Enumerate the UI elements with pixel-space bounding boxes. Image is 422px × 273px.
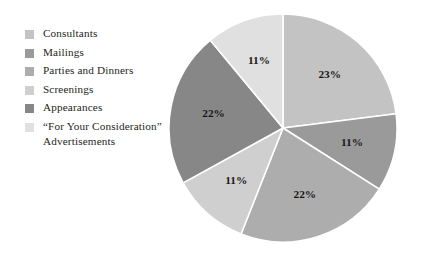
legend-swatch-icon — [25, 123, 34, 132]
pie-svg: 23%11%22%11%22%11% — [168, 13, 398, 243]
pie-slice-value-label: 22% — [294, 188, 317, 200]
legend-item-label: Mailings — [43, 45, 84, 61]
legend-item-screenings: Screenings — [25, 82, 175, 98]
legend-swatch-icon — [25, 30, 34, 39]
pie-slice-group — [169, 14, 397, 242]
pie-slice-value-label: 11% — [225, 174, 247, 186]
legend-item-mailings: Mailings — [25, 45, 175, 61]
legend-item-label: “For Your Consideration” Advertisements — [43, 119, 162, 150]
pie-slice-value-label: 11% — [341, 136, 363, 148]
pie-graphic: 23%11%22%11%22%11% — [168, 13, 398, 243]
legend-swatch-icon — [25, 49, 34, 58]
legend-swatch-icon — [25, 67, 34, 76]
legend-swatch-icon — [25, 104, 34, 113]
legend-item-appearances: Appearances — [25, 100, 175, 116]
legend-item-parties-and-dinners: Parties and Dinners — [25, 63, 175, 79]
legend-item-label: Appearances — [43, 100, 102, 116]
legend-item-label: Parties and Dinners — [43, 63, 133, 79]
legend-swatch-icon — [25, 86, 34, 95]
pie-slice-value-label: 11% — [248, 54, 270, 66]
pie-slice-value-label: 22% — [202, 107, 225, 119]
legend-item-consultants: Consultants — [25, 26, 175, 42]
legend-item-for-your-consideration-advertisements: “For Your Consideration” Advertisements — [25, 119, 175, 150]
pie-chart-figure: Consultants Mailings Parties and Dinners… — [0, 0, 422, 273]
pie-slice-value-label: 23% — [318, 68, 341, 80]
legend-item-label: Screenings — [43, 82, 94, 98]
chart-legend: Consultants Mailings Parties and Dinners… — [25, 26, 175, 153]
legend-item-label: Consultants — [43, 26, 98, 42]
